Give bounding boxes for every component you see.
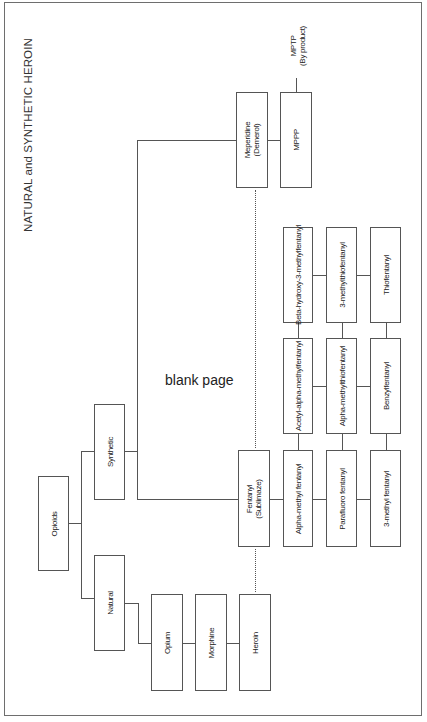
connector — [386, 434, 387, 450]
node-alpha-methylthiofentanyl: Alpha-methylthiofentanyl — [326, 338, 357, 434]
connector — [137, 140, 236, 141]
node-alpha-methyl-fentanyl: Alpha-methyl fentanyl — [283, 450, 313, 547]
connector — [357, 499, 370, 500]
connector — [357, 275, 370, 276]
dotted-link — [255, 549, 256, 592]
node-opioids: Opioids — [38, 476, 69, 571]
node-3-methylthiofentanyl: 3-methylthiofentanyl — [326, 227, 357, 323]
connector — [270, 499, 283, 500]
connector — [227, 643, 239, 644]
connector — [342, 323, 343, 338]
node-fentanyl: Fentanyl (Sublimaze) — [238, 450, 270, 547]
connector — [138, 603, 139, 643]
connector — [69, 523, 81, 524]
connector — [342, 434, 343, 450]
node-morphine: Morphine — [195, 594, 227, 691]
connector — [313, 386, 326, 387]
node-meperidine: Meperidine (Demerol) — [236, 92, 268, 188]
connector — [298, 434, 299, 450]
connector — [137, 499, 238, 500]
connector — [298, 323, 299, 338]
node-heroin: Heroin — [239, 594, 271, 691]
blank-page-watermark: blank page — [165, 372, 234, 388]
node-parafluoro-fentanyl: Parafluoro fentanyl — [326, 450, 357, 547]
node-mptp: MPTP (By product) — [289, 26, 307, 66]
connector — [125, 603, 138, 604]
node-beta-hydroxy-3-methylfentanyl: Beta-hydroxy-3-methylfentanyl — [283, 227, 313, 323]
node-mppp: MPPP — [280, 92, 312, 188]
dotted-link — [255, 190, 256, 448]
node-benzylfentanyl: Benzylfentanyl — [370, 338, 401, 434]
connector — [81, 598, 94, 599]
node-3-methyl-fentanyl: 3-methyl fentanyl — [370, 450, 401, 547]
connector — [81, 451, 94, 452]
connector — [138, 643, 151, 644]
node-synthetic: Synthetic — [94, 404, 125, 500]
connector — [313, 275, 326, 276]
connector — [357, 386, 370, 387]
node-natural: Natural — [94, 555, 125, 651]
connector — [183, 643, 195, 644]
connector — [125, 451, 137, 452]
node-thiofentanyl: Thiofentanyl — [370, 227, 401, 323]
connector — [268, 140, 280, 141]
node-acetyl-alpha-methylfentanyl: Acetyl-alpha-methylfentanyl — [283, 338, 313, 434]
connector — [137, 140, 138, 499]
connector — [81, 451, 82, 598]
connector — [296, 78, 297, 92]
connector — [386, 323, 387, 338]
node-opium: Opium — [151, 594, 183, 691]
connector — [313, 499, 326, 500]
diagram-title: NATURAL and SYNTHETIC HEROIN — [22, 38, 34, 232]
